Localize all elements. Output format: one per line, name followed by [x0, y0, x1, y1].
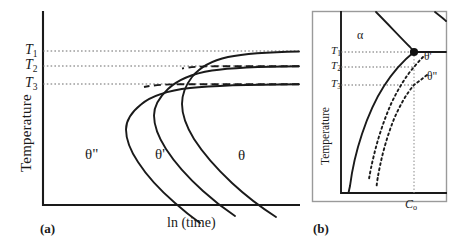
panel-a-caption: (a): [40, 222, 55, 235]
panel-a-tick-t3-base: T: [25, 75, 33, 90]
panel-a-plot: [0, 0, 300, 244]
panel-b-tick-label-t3: T3: [331, 78, 341, 91]
panel-a-curve-theta: [182, 52, 299, 218]
panel-b-x-label-sub: o: [413, 203, 417, 212]
panel-b-tick-label-t1: T1: [331, 45, 341, 58]
panel-b-upper-phase-boundary: [376, 12, 414, 52]
panel-b-alpha-solvus: [349, 52, 415, 193]
panel-a-tick-label-t3: T3: [25, 76, 38, 92]
panel-a-curve-label-theta-double-prime: θ": [85, 147, 98, 162]
panel-b-x-axis-label: Co: [405, 198, 417, 212]
panel-b-theta-double-prime-solvus: [377, 75, 428, 187]
panel-b-curve-label-theta-double-prime: θ": [427, 71, 437, 83]
panel-b-tick-t3-sub: 3: [337, 82, 341, 91]
panel-a-y-axis-label: Temperature: [19, 94, 34, 172]
panel-b-curve-label-theta-prime: θ': [424, 51, 432, 63]
panel-a-curve-label-theta-prime: θ': [155, 147, 165, 162]
panel-b-tick-label-t2: T2: [331, 60, 341, 73]
panel-a-x-axis-label: ln (time): [167, 216, 216, 230]
panel-a-tick-t2-sub: 2: [33, 64, 38, 74]
panel-a-axes: [43, 12, 299, 205]
panel-b-theta-prime-solvus: [369, 57, 423, 179]
panel-a-curve-label-theta: θ: [238, 148, 245, 163]
panel-a-curve-theta-double-prime: [126, 84, 299, 223]
panel-b-corner-boundary: [435, 12, 446, 21]
panel-a-tick-t3-sub: 3: [33, 82, 38, 92]
panel-b-outer-frame: [313, 12, 447, 202]
panel-b-x-label-base: C: [405, 197, 413, 211]
panel-a-tick-t1-base: T: [25, 42, 33, 57]
panel-b-y-axis-label: Temperature: [320, 107, 332, 165]
panel-a-curve-theta-prime: [154, 66, 299, 216]
panel-a-tick-label-t2: T2: [25, 58, 38, 74]
panel-b-tick-t1-sub: 1: [337, 49, 341, 58]
figure-container: Temperature T1 T2 T3 θ" θ' θ ln (time) (…: [0, 0, 459, 244]
panel-b-intersection-point: [410, 48, 418, 56]
panel-b-phase-label-alpha: α: [357, 29, 363, 41]
panel-b-tick-t2-sub: 2: [337, 64, 341, 73]
panel-b-caption: (b): [313, 222, 329, 235]
panel-a-tick-t2-base: T: [25, 57, 33, 72]
